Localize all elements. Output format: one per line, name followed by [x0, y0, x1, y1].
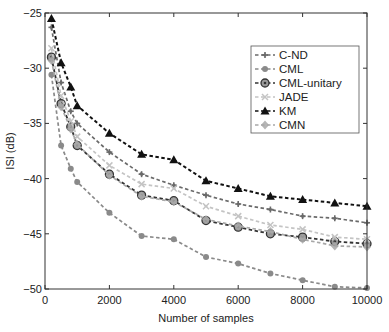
isi-line-chart: 0200040006000800010000−25−30−35−40−45−50…	[0, 0, 389, 332]
dot-marker-icon	[139, 233, 145, 239]
dot-marker-icon	[235, 261, 241, 267]
y-tick-label: −30	[23, 62, 42, 74]
x-tick-label: 0	[42, 294, 48, 306]
dot-marker-icon	[106, 210, 112, 216]
circle-dot-marker-icon	[261, 79, 269, 87]
y-tick-label: −40	[23, 173, 42, 185]
legend-label: JADE	[279, 91, 309, 103]
legend-label: CML-unitary	[279, 77, 342, 89]
dot-marker-icon	[58, 142, 64, 148]
legend-label: CML	[279, 63, 304, 75]
dot-marker-icon	[300, 277, 306, 283]
legend: C-NDCMLCML-unitaryJADEKMCMN	[251, 46, 359, 133]
y-tick-label: −45	[23, 228, 42, 240]
x-axis-label: Number of samples	[158, 312, 254, 324]
x-tick-label: 4000	[162, 294, 186, 306]
y-tick-label: −25	[23, 7, 42, 19]
y-tick-label: −50	[23, 283, 42, 295]
dot-marker-icon	[171, 236, 177, 242]
dot-marker-icon	[68, 166, 74, 172]
dot-marker-icon	[267, 271, 273, 277]
y-tick-label: −35	[23, 117, 42, 129]
dot-marker-icon	[74, 179, 80, 185]
dot-marker-icon	[262, 66, 268, 72]
x-tick-label: 6000	[226, 294, 250, 306]
x-tick-label: 10000	[352, 294, 383, 306]
x-tick-label: 2000	[97, 294, 121, 306]
legend-label: KM	[279, 105, 296, 117]
x-tick-label: 8000	[290, 294, 314, 306]
legend-label: C-ND	[279, 49, 308, 61]
legend-label: CMN	[279, 119, 305, 131]
dot-marker-icon	[203, 254, 209, 260]
y-axis-label: ISI (dB)	[4, 132, 16, 169]
